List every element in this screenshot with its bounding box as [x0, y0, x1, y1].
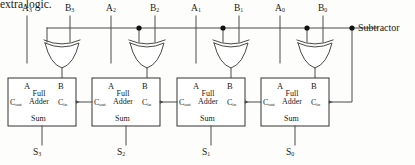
- junction-dot: [220, 25, 225, 30]
- output-label-S0: S0: [286, 148, 294, 158]
- input-label-B3: B3: [65, 4, 74, 14]
- input-label-A1: A1: [191, 4, 201, 14]
- xor-gate-1: [213, 40, 249, 78]
- adder0-label-cout: Cout: [263, 99, 275, 108]
- junction-dot: [136, 25, 141, 30]
- adder1-label-cin: Cin: [227, 99, 236, 108]
- adder2-label-sum: Sum: [115, 115, 130, 123]
- adder1-label-B: B: [227, 82, 233, 91]
- input-label-B0: B0: [318, 4, 327, 14]
- xor-gate-2: [129, 40, 165, 78]
- adder1-label-sum: Sum: [200, 115, 215, 123]
- adder3-label-cout: Cout: [10, 99, 22, 108]
- input-label-A0: A0: [275, 4, 285, 14]
- control-to-cin0: [329, 28, 352, 102]
- adder-subtractor-diagram: extra logic. Subtractor A3 B3 A2 B2 A1 B…: [0, 0, 415, 165]
- input-label-A3: A3: [22, 4, 32, 14]
- input-label-A2: A2: [106, 4, 116, 14]
- adder1-name: FullAdder: [198, 90, 218, 106]
- adder3-label-sum: Sum: [31, 115, 46, 123]
- subtractor-control-label: Subtractor: [358, 23, 400, 33]
- adder0-label-B: B: [311, 82, 317, 91]
- adder2-label-B: B: [142, 82, 148, 91]
- xor-gate-0: [297, 40, 333, 78]
- xor-gate-3: [44, 40, 80, 78]
- input-label-B1: B1: [234, 4, 243, 14]
- junction-dot: [349, 25, 354, 30]
- output-label-S3: S3: [33, 148, 41, 158]
- adder0-label-sum: Sum: [284, 115, 299, 123]
- adder3-label-B: B: [58, 82, 64, 91]
- adder2-label-cin: Cin: [142, 99, 151, 108]
- output-label-S1: S1: [202, 148, 210, 158]
- junction-dot: [304, 25, 309, 30]
- adder2-name: FullAdder: [113, 90, 133, 106]
- input-label-B2: B2: [150, 4, 159, 14]
- adder0-label-cin: Cin: [311, 99, 320, 108]
- output-label-S2: S2: [117, 148, 125, 158]
- adder0-name: FullAdder: [282, 90, 302, 106]
- adder2-label-cout: Cout: [94, 99, 106, 108]
- adder1-label-cout: Cout: [179, 99, 191, 108]
- adder3-label-cin: Cin: [58, 99, 67, 108]
- adder3-name: FullAdder: [29, 90, 49, 106]
